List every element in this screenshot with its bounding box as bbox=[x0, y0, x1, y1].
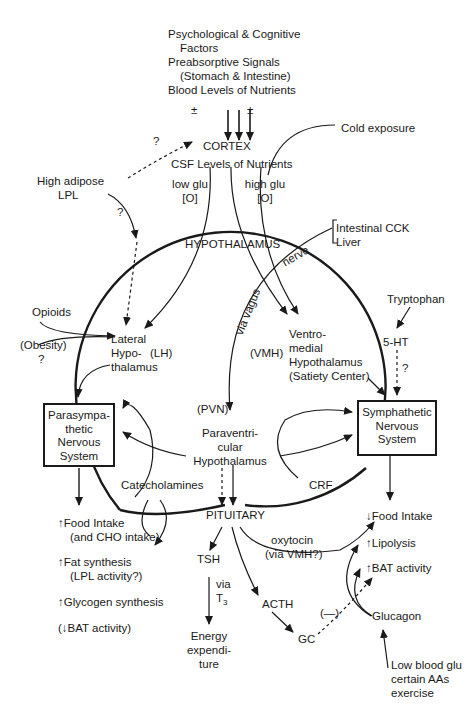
lateral-label: Lateral bbox=[111, 333, 146, 347]
question-adipose: ? bbox=[117, 206, 123, 220]
sympathetic-box: Symphathetic Nervous System bbox=[357, 400, 437, 456]
stomach-intestine-label: (Stomach & Intestine) bbox=[180, 70, 291, 84]
food-intake-up: ↑Food Intake bbox=[58, 517, 124, 531]
catecholamines-label: Catecholamines bbox=[121, 479, 203, 493]
acth-label: ACTH bbox=[262, 598, 293, 612]
cular-label: cular bbox=[190, 441, 270, 455]
via-vmh-label: (via VMH?) bbox=[265, 548, 323, 562]
via-label: via bbox=[216, 578, 231, 592]
certain-aas-label: certain AAs bbox=[391, 673, 449, 687]
lh-abbr: (LH) bbox=[150, 347, 172, 361]
bat-activity-down: (↓BAT activity) bbox=[58, 622, 131, 636]
low-glu-label: low glu bbox=[170, 178, 210, 192]
thalamus-label: thalamus bbox=[111, 361, 158, 375]
high-adipose-label: High adipose bbox=[37, 175, 104, 189]
exercise-label: exercise bbox=[391, 687, 434, 701]
parasymp-line3: Nervous bbox=[45, 436, 113, 450]
5ht-label: 5-HT bbox=[383, 336, 409, 350]
vmh-hypothalamus-label: Hypothalamus bbox=[289, 356, 363, 370]
blood-levels-label: Blood Levels of Nutrients bbox=[168, 84, 296, 98]
opioids-label: Opioids bbox=[32, 306, 71, 320]
psych-factors-label: Psychological & Cognitive bbox=[168, 28, 300, 42]
glycogen-synthesis: ↑Glycogen synthesis bbox=[58, 596, 163, 610]
parasymp-line1: Parasympa- bbox=[45, 409, 113, 423]
cold-exposure-label: Cold exposure bbox=[341, 122, 415, 136]
low-blood-glu-label: Low blood glu bbox=[391, 659, 462, 673]
glucagon-label: Glucagon bbox=[372, 610, 421, 624]
cortex-label: CORTEX bbox=[203, 140, 251, 154]
symp-line3: System bbox=[359, 433, 435, 447]
symp-line2: Nervous bbox=[359, 420, 435, 434]
factors-label: Factors bbox=[180, 42, 218, 56]
plus-minus-left: ± bbox=[191, 104, 197, 118]
pituitary-label: PITUITARY bbox=[206, 509, 265, 523]
gc-label: GC bbox=[298, 633, 315, 647]
liver-label: Liver bbox=[336, 236, 361, 250]
lpl-label: LPL bbox=[58, 189, 78, 203]
high-glu-label: high glu bbox=[243, 178, 287, 192]
pvn-hypothalamus-label: Hypothalamus bbox=[190, 455, 270, 469]
expendi-label: expendi- bbox=[186, 644, 232, 658]
crf-label: CRF bbox=[309, 479, 333, 493]
tryptophan-label: Tryptophan bbox=[387, 293, 445, 307]
minus-label: (—) bbox=[320, 607, 339, 621]
symp-line1: Symphathetic bbox=[359, 406, 435, 420]
lipolysis-up: ↑Lipolysis bbox=[366, 537, 416, 551]
fat-synthesis: ↑Fat synthesis bbox=[58, 556, 132, 570]
obesity-question: ? bbox=[38, 353, 44, 367]
csf-levels-label: CSF Levels of Nutrients bbox=[171, 158, 292, 172]
t3-label: T3 bbox=[216, 592, 227, 610]
low-glu-o: [O] bbox=[170, 192, 210, 206]
intestinal-cck-label: Intestinal CCK bbox=[336, 222, 410, 236]
energy-label: Energy bbox=[186, 630, 232, 644]
cho-intake: (and CHO intake) bbox=[70, 531, 159, 545]
parasymp-line4: System bbox=[45, 450, 113, 464]
ture-label: ture bbox=[186, 658, 232, 672]
paraventri-label: Paraventri- bbox=[190, 427, 270, 441]
pvn-abbr: (PVN) bbox=[197, 403, 228, 417]
question-5ht: ? bbox=[402, 362, 408, 376]
parasymp-line2: thetic bbox=[45, 423, 113, 437]
high-glu-o: [O] bbox=[243, 192, 287, 206]
preabsorptive-label: Preabsorptive Signals bbox=[168, 56, 280, 70]
parasympathetic-box: Parasympa- thetic Nervous System bbox=[43, 403, 115, 467]
plus-minus-right: ± bbox=[247, 104, 253, 118]
hypo-label: Hypo- bbox=[111, 347, 142, 361]
oxytocin-label: oxytocin bbox=[271, 534, 313, 548]
food-intake-down: ↓Food Intake bbox=[366, 510, 432, 524]
vmh-abbr: (VMH) bbox=[250, 347, 283, 361]
bat-activity-up: ↑BAT activity bbox=[366, 562, 431, 576]
medial-label: medial bbox=[289, 342, 323, 356]
tsh-label: TSH bbox=[197, 553, 220, 567]
ventro-label: Ventro- bbox=[289, 328, 326, 342]
lpl-activity: (LPL activity?) bbox=[70, 570, 142, 584]
hypothalamus-label: HYPOTHALAMUS bbox=[185, 238, 280, 252]
question-cortex: ? bbox=[153, 135, 159, 149]
obesity-label: (Obesity) bbox=[20, 339, 67, 353]
satiety-center-label: (Satiety Center) bbox=[289, 370, 370, 384]
